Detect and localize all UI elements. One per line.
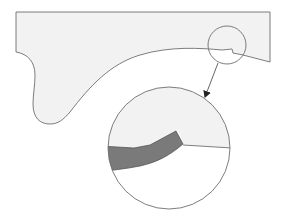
- diagram-svg: [0, 0, 283, 218]
- diagram-canvas: [0, 0, 283, 218]
- detail-view: [100, 80, 240, 218]
- callout-arrow: [205, 63, 218, 97]
